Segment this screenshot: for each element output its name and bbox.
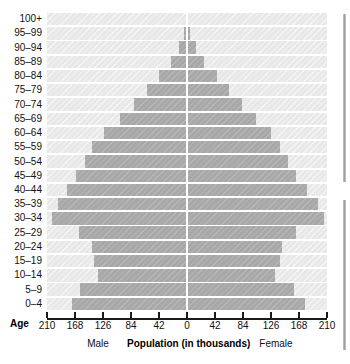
x-axis-tick [130, 312, 132, 318]
age-tick-label: 55–59 [0, 141, 42, 152]
age-tick-label: 20–24 [0, 241, 42, 252]
population-pyramid-chart: 100+95–9990–9485–8980–8475–7970–7465–696… [0, 0, 350, 364]
female-bar [187, 255, 280, 267]
age-tick-label: 65–69 [0, 113, 42, 124]
age-tick-label: 25–29 [0, 227, 42, 238]
female-bar [187, 170, 296, 182]
x-axis-tick-label: 84 [228, 320, 258, 331]
female-bar [187, 212, 324, 224]
x-axis-tick-label: 42 [144, 320, 174, 331]
x-axis-tick [74, 312, 76, 318]
x-axis-tick-label: 42 [200, 320, 230, 331]
x-axis-tick-label: 0 [172, 320, 202, 331]
age-tick-label: 40–44 [0, 184, 42, 195]
x-axis-title: Population (in thousands) [127, 338, 247, 349]
age-axis-label: Age [10, 318, 29, 329]
male-bar [98, 269, 187, 281]
male-bar [94, 255, 187, 267]
x-axis-tick-label: 168 [60, 320, 90, 331]
male-bar [72, 298, 187, 310]
age-tick-label: 90–94 [0, 42, 42, 53]
female-bar [187, 241, 282, 253]
plot-area [47, 12, 327, 311]
age-tick-label: 70–74 [0, 99, 42, 110]
male-bar [52, 212, 187, 224]
female-bar [187, 41, 196, 53]
male-bar [79, 226, 187, 238]
male-bar [104, 127, 187, 139]
x-axis-tick [102, 312, 104, 318]
x-axis-tick-label: 210 [32, 320, 62, 331]
male-bar [85, 155, 187, 167]
male-bar [120, 113, 187, 125]
age-tick-label: 80–84 [0, 70, 42, 81]
female-bar [187, 155, 288, 167]
x-axis-tick [46, 312, 48, 318]
male-legend-label: Male [68, 338, 128, 349]
age-tick-label: 45–49 [0, 170, 42, 181]
x-axis-tick-label: 210 [312, 320, 342, 331]
age-tick-label: 50–54 [0, 156, 42, 167]
male-bar [147, 84, 187, 96]
male-bar [134, 98, 187, 110]
male-bar [80, 283, 187, 295]
female-bar [187, 98, 242, 110]
zero-axis-centerline [186, 12, 187, 311]
age-tick-label: 5–9 [0, 284, 42, 295]
age-tick-label: 30–34 [0, 212, 42, 223]
age-tick-label: 10–14 [0, 269, 42, 280]
female-bar [187, 70, 217, 82]
female-bar [187, 283, 294, 295]
male-bar [76, 170, 187, 182]
male-bar [159, 70, 187, 82]
female-bar [187, 184, 307, 196]
x-axis-tick [158, 312, 160, 318]
age-tick-label: 85–89 [0, 56, 42, 67]
age-tick-label: 95–99 [0, 27, 42, 38]
female-bar [187, 298, 305, 310]
female-bar [187, 84, 229, 96]
age-tick-label: 100+ [0, 13, 42, 24]
female-bar [187, 141, 280, 153]
x-axis-tick [270, 312, 272, 318]
female-bar [187, 113, 256, 125]
x-axis-tick [326, 312, 328, 318]
age-tick-label: 75–79 [0, 84, 42, 95]
x-axis-tick [298, 312, 300, 318]
male-bar [92, 241, 187, 253]
female-legend-label: Female [246, 338, 306, 349]
male-bar [92, 141, 187, 153]
x-axis-tick-label: 126 [88, 320, 118, 331]
scroll-rail-top[interactable] [343, 14, 346, 182]
x-axis-tick-label: 168 [284, 320, 314, 331]
x-axis-tick-label: 126 [256, 320, 286, 331]
female-bar [187, 198, 318, 210]
x-axis-tick [186, 312, 188, 318]
age-tick-label: 60–64 [0, 127, 42, 138]
female-bar [187, 226, 296, 238]
age-tick-label: 15–19 [0, 255, 42, 266]
male-bar [58, 198, 187, 210]
female-bar [187, 269, 275, 281]
x-axis-tick [214, 312, 216, 318]
x-axis-tick-label: 84 [116, 320, 146, 331]
x-axis-tick [242, 312, 244, 318]
age-tick-label: 0–4 [0, 298, 42, 309]
scroll-rail-bottom[interactable] [343, 200, 346, 350]
female-bar [187, 127, 271, 139]
male-bar [67, 184, 187, 196]
male-bar [171, 56, 187, 68]
female-bar [187, 56, 204, 68]
age-tick-label: 35–39 [0, 198, 42, 209]
